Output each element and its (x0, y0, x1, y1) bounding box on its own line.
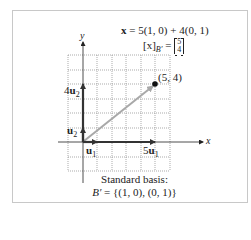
u2-label: u2 (67, 125, 77, 139)
u1-label: u1 (86, 145, 96, 159)
equation-coordinate-vector: [x]B′ = 54 (143, 38, 184, 54)
five-u1-label: 5u1 (143, 145, 159, 159)
point-label: (5, 4) (158, 72, 182, 83)
x-axis-label: x (206, 136, 210, 146)
caption-title: Standard basis: (0, 173, 251, 185)
result-vector (84, 86, 153, 141)
coordinate-matrix: 54 (174, 38, 184, 54)
y-axis-label: y (80, 31, 84, 41)
four-u2-label: 4u2 (64, 85, 80, 99)
equation-linear-combination: x = 5(1, 0) + 4(0, 1) (121, 25, 209, 36)
caption-basis-set: B′ = {(1, 0), (0, 1)} (0, 186, 251, 198)
point-5-4 (152, 81, 158, 87)
